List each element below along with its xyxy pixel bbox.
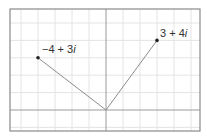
point-marker (36, 56, 40, 60)
point-label: 3 + 4i (160, 27, 188, 39)
label-imaginary-unit: i (185, 27, 188, 39)
label-real-part: 3 + 4 (160, 27, 185, 39)
complex-plane-diagram: 3 + 4i−4 + 3i (0, 0, 207, 139)
label-imaginary-unit: i (73, 43, 76, 55)
point-labels: 3 + 4i−4 + 3i (42, 27, 188, 54)
point-label: −4 + 3i (42, 43, 76, 55)
label-real-part: −4 + 3 (42, 43, 73, 55)
point-marker (155, 39, 159, 43)
